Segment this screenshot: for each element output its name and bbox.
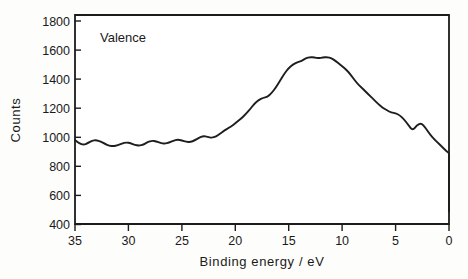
y-tick-label-1400: 1400 [42, 73, 70, 87]
y-tick-label-800: 800 [49, 160, 70, 174]
y-tick-label-1800: 1800 [42, 15, 70, 29]
plot-area-background [75, 15, 449, 224]
y-tick-label-1200: 1200 [42, 102, 70, 116]
valence-annotation: Valence [100, 30, 146, 45]
valence-band-chart: 1800 1600 1400 1200 1000 800 600 400 35 … [0, 0, 468, 279]
x-tick-label-10: 10 [335, 234, 349, 248]
x-tick-label-15: 15 [282, 234, 296, 248]
y-axis-title: Counts [8, 98, 23, 143]
y-tick-label-1000: 1000 [42, 131, 70, 145]
x-tick-label-20: 20 [228, 234, 242, 248]
x-axis-title: Binding energy / eV [200, 254, 325, 269]
y-tick-label-1600: 1600 [42, 44, 70, 58]
x-tick-label-35: 35 [68, 234, 82, 248]
x-tick-label-5: 5 [392, 234, 399, 248]
chart-screenshot: 1800 1600 1400 1200 1000 800 600 400 35 … [0, 0, 468, 279]
y-tick-label-400: 400 [49, 218, 70, 232]
x-tick-label-0: 0 [446, 234, 453, 248]
x-tick-label-25: 25 [175, 234, 189, 248]
x-tick-label-30: 30 [121, 234, 135, 248]
y-tick-label-600: 600 [49, 189, 70, 203]
